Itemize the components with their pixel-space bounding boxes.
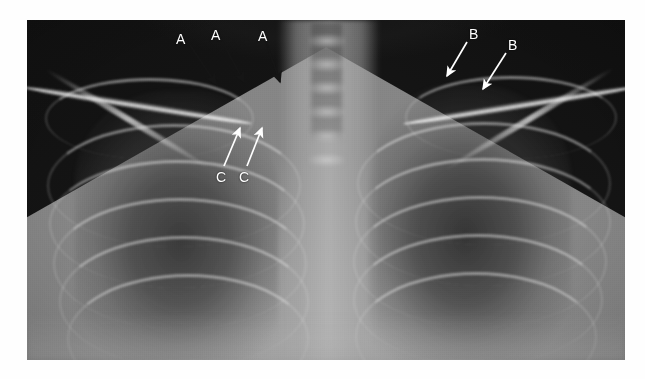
label-c2: C — [239, 170, 249, 184]
xray-image — [27, 20, 625, 360]
label-a3: A — [258, 29, 267, 43]
film-grain — [27, 20, 625, 360]
label-a2: A — [211, 28, 220, 42]
label-b1: B — [469, 27, 478, 41]
label-a1: A — [176, 32, 185, 46]
label-c1: C — [216, 170, 226, 184]
label-b2: B — [508, 38, 517, 52]
radiograph-figure: AAABBCC — [0, 0, 645, 379]
